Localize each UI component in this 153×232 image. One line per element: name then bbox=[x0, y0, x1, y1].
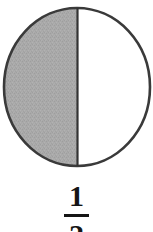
circle-half-unshaded bbox=[77, 5, 152, 169]
fraction-numerator: 1 bbox=[64, 180, 89, 212]
circle-diagram-svg bbox=[2, 5, 152, 169]
fraction-circle-figure: 1 2 bbox=[0, 0, 153, 232]
circle-half-shaded bbox=[2, 5, 78, 169]
fraction-label: 1 2 bbox=[0, 180, 153, 232]
fraction-denominator: 2 bbox=[64, 219, 89, 232]
fraction-stack: 1 2 bbox=[64, 180, 89, 232]
circle-diagram bbox=[2, 5, 152, 169]
fraction-bar bbox=[64, 214, 89, 217]
